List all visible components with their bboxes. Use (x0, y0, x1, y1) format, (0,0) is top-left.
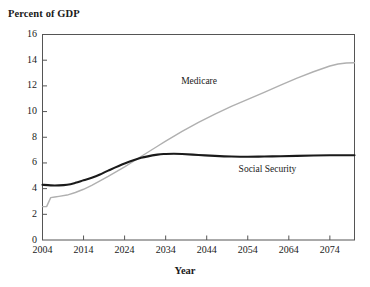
series-label-medicare: Medicare (181, 76, 217, 86)
x-tick-label: 2004 (20, 244, 66, 255)
x-tick-label: 2054 (225, 244, 271, 255)
y-tick-label: 14 (11, 54, 37, 65)
x-axis-title: Year (0, 265, 370, 276)
y-tick-label: 0 (11, 234, 37, 245)
plot-frame (43, 35, 355, 241)
y-tick-label: 16 (11, 28, 37, 39)
x-tick-label: 2044 (184, 244, 230, 255)
y-tick-label: 8 (11, 131, 37, 142)
chart-figure: Percent of GDP 0246810121416 20042014202… (0, 0, 370, 287)
y-tick-label: 6 (11, 156, 37, 167)
y-tick-label: 4 (11, 182, 37, 193)
x-tick-label: 2074 (307, 244, 353, 255)
x-tick-label: 2064 (266, 244, 312, 255)
y-tick-label: 2 (11, 208, 37, 219)
x-tick-label: 2024 (102, 244, 148, 255)
x-tick-label: 2014 (61, 244, 107, 255)
series-label-social-security: Social Security (239, 164, 297, 174)
x-tick-label: 2034 (143, 244, 189, 255)
y-tick-label: 10 (11, 105, 37, 116)
y-tick-label: 12 (11, 79, 37, 90)
